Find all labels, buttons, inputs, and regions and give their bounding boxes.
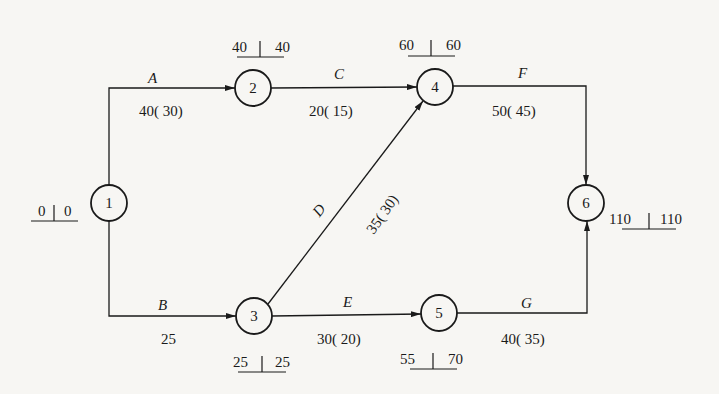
node-3-label: 3: [236, 306, 272, 326]
activity-f-duration: 50( 45): [492, 104, 536, 119]
node-3-time-right: 25: [275, 355, 290, 370]
activity-e-duration: 30( 20): [317, 332, 361, 347]
node-6-label: 6: [568, 193, 604, 213]
node-2-label: 2: [235, 78, 271, 98]
arrow-e: [272, 314, 421, 316]
node-5-time-left: 55: [400, 352, 415, 367]
activity-e-name: E: [343, 295, 352, 310]
node-1-time-right: 0: [64, 204, 72, 219]
node-4-label: 4: [417, 77, 453, 97]
activity-a-name: A: [148, 71, 157, 86]
node-4-time-left: 60: [399, 38, 414, 53]
activity-b-duration: 25: [161, 332, 176, 347]
activity-c-name: C: [334, 67, 344, 82]
activity-c-duration: 20( 15): [309, 104, 353, 119]
node-1-label: 1: [91, 193, 127, 213]
node-2-time-right: 40: [275, 40, 290, 55]
node-1-time-left: 0: [38, 204, 46, 219]
activity-g-duration: 40( 35): [501, 332, 545, 347]
node-3-time-left: 25: [233, 355, 248, 370]
activity-a-duration: 40( 30): [139, 104, 183, 119]
node-2-time-left: 40: [232, 40, 247, 55]
activity-f-name: F: [518, 66, 527, 81]
node-6-time-left: 110: [609, 212, 631, 227]
node-5-time-right: 70: [448, 352, 463, 367]
node-6-time-right: 110: [660, 212, 682, 227]
arrow-b: [109, 221, 236, 316]
node-5-label: 5: [421, 303, 457, 323]
arrow-c: [271, 87, 417, 88]
arrow-f: [453, 86, 586, 185]
activity-g-name: G: [521, 296, 532, 311]
node-4-time-right: 60: [446, 38, 461, 53]
activity-b-name: B: [158, 298, 167, 313]
